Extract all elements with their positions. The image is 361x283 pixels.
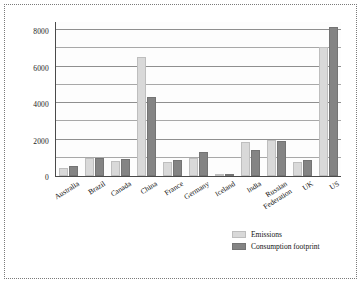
x-tick-label-brazil: Brazil — [86, 179, 106, 196]
x-tick-label-canada: Canada — [109, 179, 133, 199]
bar-iceland-consumption-footprint — [225, 174, 234, 176]
bar-uk-consumption-footprint — [303, 160, 312, 176]
y-tick-label-8000: 8000 — [33, 27, 49, 36]
x-tick-label-iceland: Iceland — [213, 179, 236, 198]
bar-india-consumption-footprint — [251, 150, 260, 176]
bar-australia-consumption-footprint — [69, 166, 78, 176]
legend-item-consumption-footprint: Consumption footprint — [232, 242, 320, 251]
bar-group — [161, 22, 187, 176]
bar-us-consumption-footprint — [329, 27, 338, 176]
bar-brazil-emissions — [85, 158, 94, 176]
legend-swatch-emissions — [232, 231, 246, 238]
bar-india-emissions — [241, 142, 250, 176]
bar-germany-consumption-footprint — [199, 152, 208, 176]
bar-france-emissions — [163, 162, 172, 176]
legend-label-line-2: footprint — [293, 242, 319, 251]
bar-russian-federation-consumption-footprint — [277, 141, 286, 176]
x-tick-label-us: US — [328, 179, 341, 192]
y-tick-label-4000: 4000 — [33, 100, 49, 109]
y-tick-label-2000: 2000 — [33, 136, 49, 145]
bar-group — [239, 22, 265, 176]
bar-china-emissions — [137, 57, 146, 176]
chart-figure: millions of tonnes CO2e 0200040006000800… — [0, 0, 361, 283]
bar-germany-emissions — [189, 158, 198, 176]
bar-australia-emissions — [59, 168, 68, 176]
x-tick-label-germany: Germany — [182, 179, 210, 201]
bar-group — [83, 22, 109, 176]
x-tick-label-uk: UK — [301, 179, 315, 192]
bar-france-consumption-footprint — [173, 160, 182, 176]
bar-us-emissions — [319, 47, 328, 176]
bar-iceland-emissions — [215, 174, 224, 176]
y-tick-label-0: 0 — [45, 173, 49, 182]
legend-label-line-1: Consumption — [251, 242, 291, 251]
legend-item-emissions: Emissions — [232, 230, 320, 239]
bar-group — [317, 22, 343, 176]
legend-label-consumption-footprint: Consumption footprint — [251, 242, 320, 251]
x-tick-label-france: France — [163, 179, 185, 197]
bar-china-consumption-footprint — [147, 97, 156, 176]
y-axis-tick-labels: 02000400060008000 — [0, 0, 55, 283]
bar-group — [291, 22, 317, 176]
bar-group — [265, 22, 291, 176]
bar-russian-federation-emissions — [267, 140, 276, 176]
x-tick-label-russian-federation: RussianFederation — [257, 179, 294, 211]
plot-area — [55, 22, 341, 177]
bar-group — [57, 22, 83, 176]
x-tick-label-china: China — [139, 179, 159, 196]
bar-brazil-consumption-footprint — [95, 158, 104, 176]
x-tick-label-australia: Australia — [53, 179, 81, 201]
bar-groups — [57, 22, 341, 176]
bar-canada-consumption-footprint — [121, 159, 130, 176]
legend-label-emissions: Emissions — [251, 230, 282, 239]
y-tick-label-6000: 6000 — [33, 63, 49, 72]
bar-group — [187, 22, 213, 176]
chart-legend: Emissions Consumption footprint — [232, 230, 320, 254]
legend-swatch-consumption-footprint — [232, 243, 246, 250]
bar-canada-emissions — [111, 161, 120, 176]
bar-group — [135, 22, 161, 176]
bar-group — [213, 22, 239, 176]
bar-uk-emissions — [293, 162, 302, 176]
bar-group — [109, 22, 135, 176]
